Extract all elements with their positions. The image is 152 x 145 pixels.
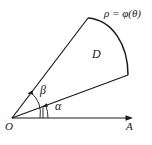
alpha-arc-path xyxy=(46,105,48,118)
alpha-arc-arrowhead xyxy=(42,103,48,107)
angle-label-beta: β xyxy=(40,84,46,96)
outer-ray-beta xyxy=(12,18,88,118)
region-label-d: D xyxy=(92,48,101,60)
curve-equation-label: ρ = φ(θ) xyxy=(104,8,141,19)
axis-endpoint-label-a: A xyxy=(126,121,133,132)
beta-arc-arrowhead xyxy=(27,91,33,95)
polar-region-figure: ρ = φ(θ) D β α O A xyxy=(0,0,152,145)
angle-label-alpha: α xyxy=(55,100,61,112)
inner-ray-alpha xyxy=(12,75,128,118)
polar-axis xyxy=(12,115,133,121)
beta-arc-path xyxy=(31,93,40,119)
origin-label-o: O xyxy=(5,121,13,132)
